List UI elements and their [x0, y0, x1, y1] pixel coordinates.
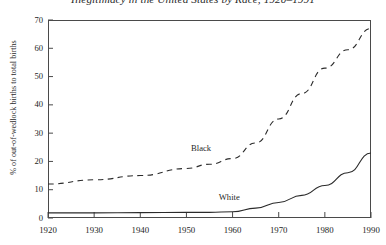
x-tick-label: 1970	[259, 225, 299, 235]
y-tick-label: 50	[17, 71, 43, 81]
x-tick-label: 1930	[74, 225, 114, 235]
series-label-white: White	[219, 192, 240, 202]
x-tick-label: 1960	[213, 225, 253, 235]
y-tick-label: 70	[17, 15, 43, 25]
series-label-black: Black	[191, 143, 211, 153]
x-tick-label: 1990	[351, 225, 386, 235]
x-tick-label: 1940	[120, 225, 160, 235]
plot-svg	[0, 0, 386, 245]
series-line-white	[48, 153, 371, 213]
y-tick-label: 10	[17, 184, 43, 194]
x-tick-label: 1950	[166, 225, 206, 235]
series-line-black	[48, 28, 371, 184]
x-tick-label: 1980	[305, 225, 345, 235]
x-tick-label: 1920	[28, 225, 68, 235]
y-tick-label: 60	[17, 43, 43, 53]
chart-figure: Illegitimacy in the United States by Rac…	[0, 0, 386, 245]
series-layer	[48, 28, 371, 212]
y-tick-label: 20	[17, 156, 43, 166]
y-tick-label: 30	[17, 128, 43, 138]
y-tick-label: 40	[17, 99, 43, 109]
y-tick-label: 0	[17, 213, 43, 223]
y-axis-ticks	[48, 20, 53, 218]
